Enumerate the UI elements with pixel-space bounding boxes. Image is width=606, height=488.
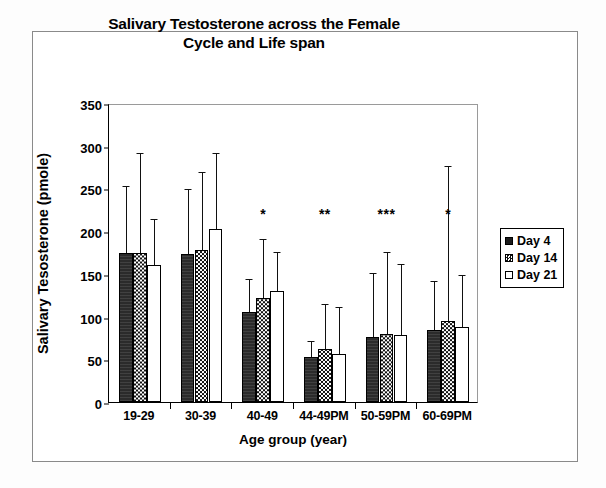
bar-day21-44-49PM	[332, 354, 346, 402]
bar-day21-19-29	[147, 265, 161, 402]
plot-area: 050100150200250300350*******	[108, 104, 478, 403]
y-tick-mark	[104, 190, 109, 191]
bar-day21-40-49	[270, 291, 284, 402]
bar-day4-44-49PM	[304, 357, 318, 402]
bar-day4-19-29	[119, 253, 133, 403]
bar-day21-60-69PM	[455, 327, 469, 402]
y-tick-label: 300	[80, 140, 102, 155]
legend-label-day4: Day 4	[517, 234, 550, 248]
error-bar-day21-50-59PM	[401, 265, 402, 334]
error-bar-cap-day4-60-69PM	[431, 281, 438, 282]
y-tick-mark	[104, 318, 109, 319]
x-tick-mark	[231, 403, 232, 409]
error-bar-day4-30-39	[188, 190, 189, 254]
error-bar-day21-40-49	[277, 253, 278, 291]
error-bar-cap-day4-44-49PM	[307, 341, 314, 342]
x-axis-label: 30-39	[185, 409, 216, 423]
legend: Day 4 Day 14 Day 21	[500, 228, 564, 288]
error-bar-day21-60-69PM	[462, 276, 463, 326]
x-axis-label: 60-69PM	[422, 409, 471, 423]
error-bar-day14-30-39	[202, 173, 203, 250]
legend-item-day14: Day 14	[505, 249, 557, 266]
error-bar-day14-40-49	[263, 240, 264, 298]
significance-marker-50-59PM: ***	[378, 207, 396, 221]
x-axis-label: 40-49	[247, 409, 278, 423]
error-bar-day4-50-59PM	[373, 274, 374, 337]
y-tick-mark	[104, 105, 109, 106]
chart-title-line-2: Cycle and Life span	[44, 33, 464, 52]
error-bar-cap-day14-44-49PM	[321, 304, 328, 305]
significance-marker-40-49: *	[260, 207, 266, 221]
y-tick-label: 200	[80, 226, 102, 241]
error-bar-day21-44-49PM	[339, 308, 340, 354]
x-axis-label: 44-49PM	[299, 409, 348, 423]
error-bar-day4-19-29	[126, 187, 127, 253]
error-bar-cap-day21-50-59PM	[397, 264, 404, 265]
significance-marker-60-69PM: *	[445, 207, 451, 221]
error-bar-cap-day4-19-29	[122, 186, 129, 187]
legend-item-day4: Day 4	[505, 232, 557, 249]
error-bar-day14-60-69PM	[448, 167, 449, 321]
error-bar-cap-day14-50-59PM	[383, 252, 390, 253]
y-tick-label: 250	[80, 183, 102, 198]
bar-day14-50-59PM	[380, 334, 394, 402]
error-bar-cap-day4-30-39	[184, 189, 191, 190]
bar-day14-60-69PM	[441, 321, 455, 402]
significance-marker-44-49PM: **	[319, 207, 331, 221]
error-bar-cap-day21-30-39	[212, 153, 219, 154]
y-axis-title: Salivary Tesosterone (pmole)	[33, 104, 53, 403]
bar-day14-40-49	[256, 298, 270, 402]
bar-day4-30-39	[181, 254, 195, 402]
y-tick-mark	[104, 361, 109, 362]
error-bar-cap-day14-40-49	[260, 239, 267, 240]
error-bar-cap-day21-40-49	[274, 252, 281, 253]
legend-label-day21: Day 21	[517, 268, 557, 282]
error-bar-day4-44-49PM	[311, 342, 312, 357]
bar-day21-30-39	[209, 229, 223, 402]
error-bar-cap-day21-19-29	[150, 219, 157, 220]
x-tick-mark	[416, 403, 417, 409]
error-bar-day4-60-69PM	[434, 282, 435, 331]
y-tick-label: 350	[80, 98, 102, 113]
x-tick-mark	[170, 403, 171, 409]
x-axis-title: Age group (year)	[108, 432, 478, 447]
error-bar-day14-50-59PM	[387, 253, 388, 334]
error-bar-cap-day21-44-49PM	[335, 307, 342, 308]
bar-day21-50-59PM	[394, 335, 408, 402]
y-tick-label: 150	[80, 268, 102, 283]
bar-day4-60-69PM	[427, 330, 441, 402]
error-bar-cap-day14-19-29	[136, 153, 143, 154]
error-bar-cap-day14-30-39	[198, 172, 205, 173]
x-tick-mark	[355, 403, 356, 409]
bar-day4-50-59PM	[366, 337, 380, 402]
chart-title: Salivary Testosterone across the Female …	[44, 14, 464, 52]
error-bar-cap-day4-40-49	[246, 279, 253, 280]
legend-swatch-day21	[505, 271, 513, 279]
bar-day14-30-39	[195, 250, 209, 402]
legend-swatch-day14	[505, 254, 513, 262]
y-tick-mark	[104, 233, 109, 234]
bar-day4-40-49	[242, 312, 256, 402]
bar-day14-19-29	[133, 253, 147, 403]
x-tick-mark	[293, 403, 294, 409]
x-axis-label: 19-29	[123, 409, 154, 423]
legend-label-day14: Day 14	[517, 251, 557, 265]
y-tick-label: 0	[95, 397, 102, 412]
error-bar-day4-40-49	[249, 280, 250, 312]
error-bar-day14-44-49PM	[325, 305, 326, 349]
x-axis-label: 50-59PM	[361, 409, 410, 423]
chart-title-line-1: Salivary Testosterone across the Female	[44, 14, 464, 33]
error-bar-cap-day21-60-69PM	[459, 275, 466, 276]
error-bar-cap-day14-60-69PM	[445, 166, 452, 167]
bar-day14-44-49PM	[318, 349, 332, 402]
error-bar-day14-19-29	[140, 154, 141, 252]
legend-swatch-day4	[505, 237, 513, 245]
scanned-page: Salivary Testosterone across the Female …	[0, 0, 606, 488]
y-tick-mark	[104, 404, 109, 405]
y-tick-label: 100	[80, 311, 102, 326]
y-tick-mark	[104, 275, 109, 276]
legend-item-day21: Day 21	[505, 266, 557, 283]
y-tick-label: 50	[88, 354, 102, 369]
error-bar-day21-30-39	[216, 154, 217, 228]
error-bar-cap-day4-50-59PM	[369, 273, 376, 274]
